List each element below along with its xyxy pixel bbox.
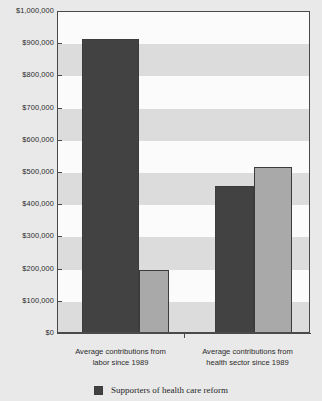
category-label-line2: labor since 1989 <box>57 357 184 368</box>
y-axis-tick <box>58 75 62 76</box>
category-label-line2: health sector since 1989 <box>184 357 311 368</box>
chart-legend: Supporters of health care reform <box>0 385 322 395</box>
y-axis-label: $500,000 <box>22 168 54 176</box>
category-label: Average contributions fromhealth sector … <box>184 346 311 368</box>
y-axis-tick <box>58 43 62 44</box>
bar <box>82 39 139 333</box>
legend-label-supporters: Supporters of health care reform <box>111 385 228 395</box>
x-axis-group-tick <box>184 334 185 338</box>
y-axis-label: $200,000 <box>22 265 54 273</box>
bar <box>254 167 292 333</box>
category-label: Average contributions fromlabor since 19… <box>57 346 184 368</box>
y-axis-tick <box>58 140 62 141</box>
y-axis-label: $700,000 <box>22 104 54 112</box>
bar <box>139 270 169 333</box>
bar-chart: $1,000,000$900,000$800,000$700,000$600,0… <box>0 0 322 401</box>
y-axis-label: $100,000 <box>22 297 54 305</box>
y-axis-label: $300,000 <box>22 232 54 240</box>
y-axis-label: $400,000 <box>22 200 54 208</box>
y-axis-tick <box>58 204 62 205</box>
y-axis-label: $1,000,000 <box>16 7 54 15</box>
plot-area <box>57 11 310 333</box>
y-axis-tick <box>58 108 62 109</box>
y-axis-tick <box>58 236 62 237</box>
y-axis-tick <box>58 269 62 270</box>
y-axis-label: $900,000 <box>22 39 54 47</box>
y-axis-label: $800,000 <box>22 71 54 79</box>
y-axis-label: $600,000 <box>22 136 54 144</box>
y-axis-label: $0 <box>46 329 54 337</box>
y-axis-tick <box>58 172 62 173</box>
category-label-line1: Average contributions from <box>75 347 166 356</box>
category-label-line1: Average contributions from <box>202 347 293 356</box>
y-axis-tick <box>58 301 62 302</box>
legend-swatch-supporters <box>94 386 103 395</box>
bar <box>215 186 254 333</box>
